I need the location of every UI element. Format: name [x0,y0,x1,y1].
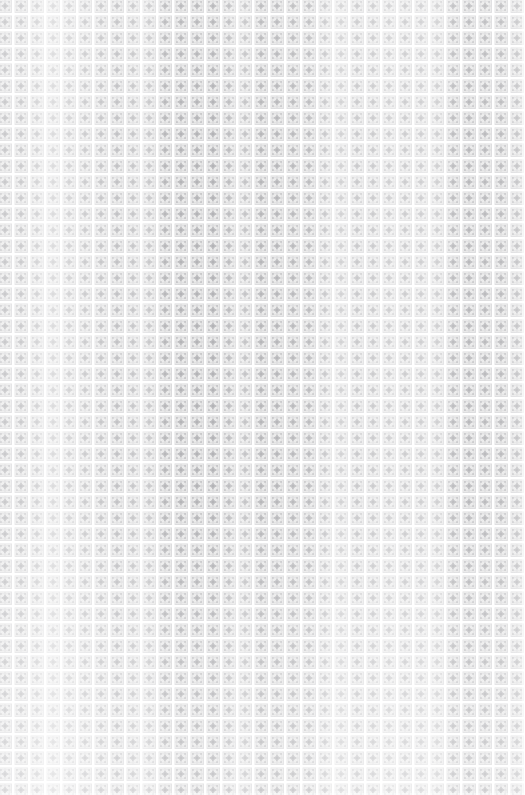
tile-motif-layer [0,0,525,795]
pattern-canvas: Seamless pale grey ornamental tile patte… [0,0,525,795]
